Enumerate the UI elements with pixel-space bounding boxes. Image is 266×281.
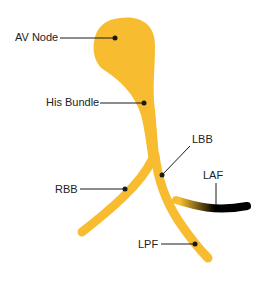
label-lpf: LPF	[138, 238, 158, 250]
leader-lbb	[160, 146, 191, 178]
label-his-bundle: His Bundle	[46, 96, 99, 108]
label-rbb: RBB	[55, 183, 78, 195]
laf-branch	[176, 200, 247, 208]
label-av-node: AV Node	[15, 31, 58, 43]
label-lbb: LBB	[192, 133, 213, 145]
rbb-branch	[82, 160, 152, 232]
conduction-diagram: AV Node His Bundle LBB RBB LAF LPF	[0, 0, 266, 281]
leader-rbb	[80, 187, 128, 192]
label-laf: LAF	[203, 169, 223, 181]
av-node-shape	[94, 17, 160, 167]
